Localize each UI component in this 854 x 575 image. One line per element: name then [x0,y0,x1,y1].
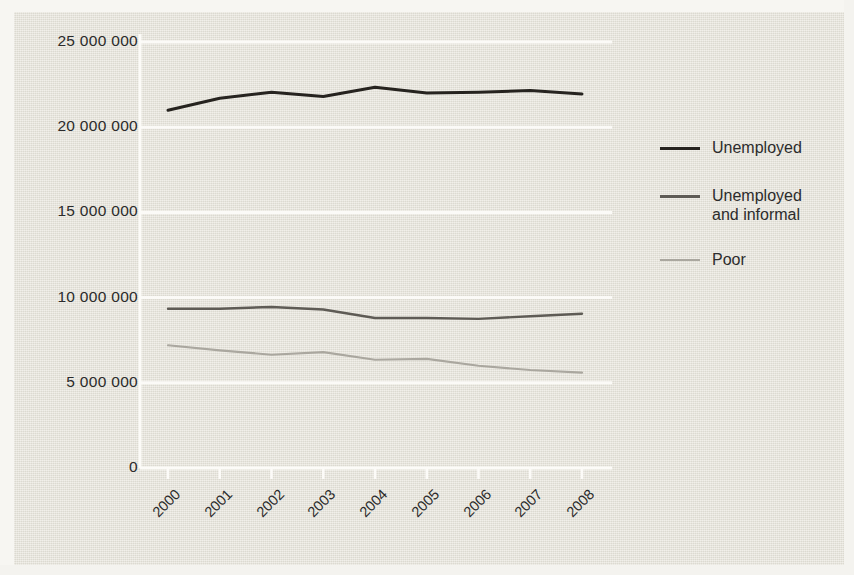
y-axis-tick-label: 20 000 000 [38,117,138,135]
y-axis-tick-label: 15 000 000 [38,202,138,220]
legend-label: Poor [712,250,850,269]
y-axis-tick-label: 10 000 000 [38,288,138,306]
series-line-unemployed [168,87,582,110]
y-axis-tick-label: 0 [38,458,138,476]
y-axis-tick-label: 5 000 000 [38,373,138,391]
scan-border-right [844,0,854,575]
chart-page: 25 000 00020 000 00015 000 00010 000 000… [0,0,854,575]
legend-item[interactable]: Unemployed and informal [660,186,850,224]
legend-item[interactable]: Unemployed [660,138,850,160]
chart-legend: UnemployedUnemployed and informalPoor [660,138,850,298]
series-line-unemployed-and-informal [168,307,582,319]
legend-line-swatch-icon [660,195,700,198]
legend-label: Unemployed and informal [712,186,850,224]
legend-line-swatch-icon [660,147,700,150]
scan-border-left [0,0,14,575]
legend-label: Unemployed [712,138,850,157]
scan-border-top [0,0,854,12]
legend-line-swatch-icon [660,259,700,261]
y-axis-tick-label: 25 000 000 [38,32,138,50]
legend-item[interactable]: Poor [660,250,850,272]
scan-border-bottom [0,565,854,575]
x-axis-ticks [168,468,582,479]
series-line-poor [168,345,582,372]
gridlines [140,42,612,383]
data-series [168,87,582,372]
